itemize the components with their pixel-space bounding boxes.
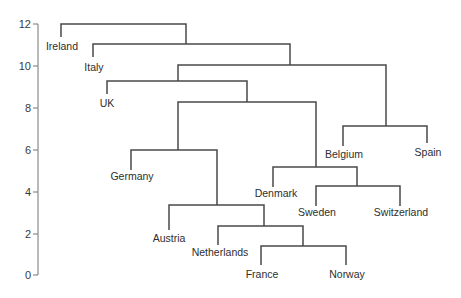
leaf-label-sweden: Sweden: [298, 206, 336, 218]
leaf-label-spain: Spain: [415, 146, 442, 158]
link-france-norway: [261, 246, 346, 265]
link-uk-cluster-belgium-spain: [178, 65, 386, 126]
link-denmark-sweden-switzerland: [273, 167, 357, 187]
leaf-label-denmark: Denmark: [255, 187, 298, 199]
leaf-label-austria: Austria: [153, 232, 186, 244]
link-sweden-switzerland: [316, 186, 400, 206]
tick-label-12: 12: [19, 18, 31, 30]
dendrogram-links: [61, 24, 427, 265]
leaf-label-germany: Germany: [110, 170, 154, 182]
leaf-label-ireland: Ireland: [46, 40, 78, 52]
tick-label-6: 6: [25, 144, 31, 156]
tick-label-8: 8: [25, 102, 31, 114]
link-italy-rest: [93, 44, 290, 65]
dendrogram-chart: 12 10 8 6 4 2 0 Ireland Ital: [0, 0, 461, 298]
tick-label-2: 2: [25, 228, 31, 240]
y-axis: 12 10 8 6 4 2 0: [19, 18, 38, 281]
link-belgium-spain: [343, 126, 427, 146]
leaf-label-uk: UK: [100, 97, 115, 109]
link-netherlands-france-norway: [218, 226, 303, 246]
tick-label-4: 4: [25, 186, 31, 198]
leaf-label-switzerland: Switzerland: [374, 206, 428, 218]
leaf-label-france: France: [246, 268, 279, 280]
tick-label-0: 0: [25, 269, 31, 281]
link-uk-cluster: [107, 81, 247, 102]
tick-label-10: 10: [19, 60, 31, 72]
leaf-label-norway: Norway: [329, 268, 365, 280]
leaf-labels: Ireland Italy UK Germany Austria Netherl…: [46, 40, 442, 280]
leaf-label-italy: Italy: [84, 61, 104, 73]
link-ireland-rest: [61, 24, 186, 44]
leaf-label-netherlands: Netherlands: [192, 246, 249, 258]
link-germany-denmark-clusters: [178, 102, 316, 167]
leaf-label-belgium: Belgium: [325, 148, 363, 160]
